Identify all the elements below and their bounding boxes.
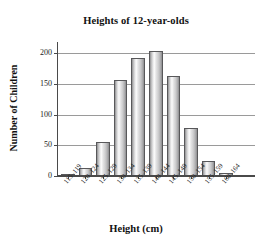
plot-area: 050100150200 bbox=[57, 44, 255, 176]
y-tick-label: 100 bbox=[40, 111, 52, 119]
y-tick-label: 50 bbox=[44, 141, 52, 149]
y-axis-line bbox=[57, 42, 58, 176]
x-axis-title: Height (cm) bbox=[0, 223, 272, 234]
y-tick-label: 150 bbox=[40, 80, 52, 88]
y-tick-label: 200 bbox=[40, 49, 52, 57]
y-axis-title: Number of Children bbox=[8, 65, 19, 152]
histogram-chart: Heights of 12-year-olds Number of Childr… bbox=[0, 0, 272, 242]
bar bbox=[149, 51, 163, 176]
y-axis-title-wrapper: Number of Children bbox=[4, 36, 22, 180]
bar bbox=[131, 58, 145, 176]
chart-title: Heights of 12-year-olds bbox=[0, 15, 272, 26]
bar bbox=[167, 76, 181, 176]
bar bbox=[114, 80, 128, 176]
y-tick-label: 0 bbox=[48, 172, 52, 180]
